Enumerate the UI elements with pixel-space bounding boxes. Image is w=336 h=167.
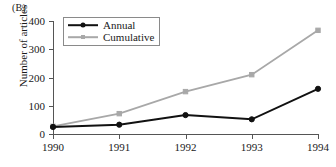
x-tick-mark	[186, 134, 187, 139]
x-tick-mark	[318, 134, 319, 139]
series-line-annual	[53, 89, 318, 127]
x-tick-mark	[252, 134, 253, 139]
legend-label: Cumulative	[103, 31, 154, 43]
legend-item: Cumulative	[68, 31, 154, 43]
x-tick-label: 1993	[241, 141, 263, 153]
y-tick-label: 200	[29, 72, 46, 84]
x-tick-mark	[119, 134, 120, 139]
legend-label: Annual	[103, 19, 135, 31]
plot-area: 0100200300400 19901991199219931994 Annua…	[53, 21, 318, 134]
x-tick-mark	[53, 134, 54, 139]
data-point-cumulative	[316, 28, 320, 32]
circle-marker	[68, 19, 98, 31]
x-tick-label: 1990	[42, 141, 64, 153]
y-axis-title: Number of articles	[17, 0, 29, 106]
square-marker	[68, 31, 98, 43]
chart-legend: AnnualCumulative	[63, 17, 160, 46]
data-point-annual	[315, 86, 320, 91]
x-tick-label: 1992	[175, 141, 197, 153]
data-point-cumulative	[183, 89, 187, 93]
x-tick-label: 1994	[307, 141, 329, 153]
legend-item: Annual	[68, 19, 154, 31]
data-point-cumulative	[250, 72, 254, 76]
data-point-annual	[249, 117, 254, 122]
data-point-annual	[50, 124, 55, 129]
data-point-cumulative	[117, 111, 121, 115]
data-point-annual	[183, 112, 188, 117]
y-tick-label: 300	[29, 43, 46, 55]
x-tick-label: 1991	[108, 141, 130, 153]
y-tick-label: 0	[40, 128, 46, 140]
figure-panel-b: (B) Number of articles 0100200300400 199…	[0, 0, 336, 167]
y-tick-label: 100	[29, 100, 46, 112]
y-tick-label: 400	[29, 15, 46, 27]
data-point-annual	[117, 122, 122, 127]
